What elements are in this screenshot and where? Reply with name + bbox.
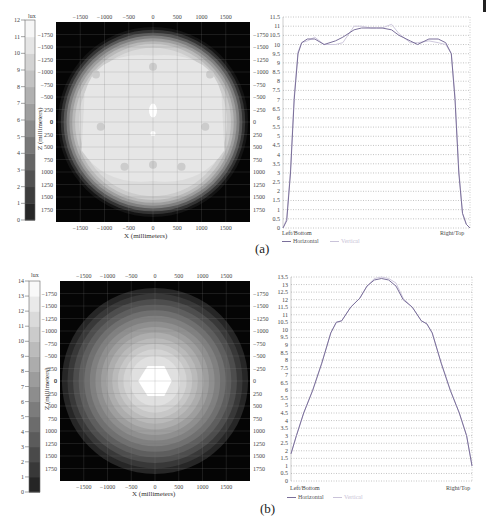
y-tick: 8.5: [273, 69, 281, 75]
y-tick: 1250: [45, 441, 57, 447]
x-left-label-a: Left/Bottom: [282, 230, 312, 236]
illuminance-heatmap: [60, 281, 250, 481]
colorbar-tick: 14: [18, 278, 24, 284]
edge-mark: [483, 0, 486, 12]
colorbar-tick: 1: [21, 474, 24, 480]
series-vertical: [291, 277, 472, 466]
y-tick: 7.5: [281, 365, 289, 371]
y-tick: −1750: [38, 32, 53, 38]
y-tick: 1750: [253, 207, 265, 213]
colorbar: [21, 20, 37, 222]
colorbar-tick: 3: [21, 444, 24, 450]
colorbar-tick: 7: [17, 100, 20, 106]
panel-caption-a: (a): [255, 241, 269, 257]
colorbar-tick: 8: [17, 84, 20, 90]
x-tick: −1500: [76, 484, 91, 490]
y-tick: −1250: [38, 57, 53, 63]
y-tick: 9.5: [281, 334, 289, 340]
y-tick: 1250: [41, 182, 53, 188]
y-tick: 1500: [253, 453, 265, 459]
colorbar-tick: 5: [17, 134, 20, 140]
y-tick: 12: [282, 297, 288, 303]
y-tick: −250: [41, 107, 53, 113]
series-horizontal: [291, 279, 472, 466]
y-tick: 6: [277, 115, 280, 121]
y-tick: 11: [274, 23, 280, 29]
colorbar-tick: 1: [17, 200, 20, 206]
y-tick: 1000: [41, 169, 53, 175]
y-tick: 4: [285, 418, 288, 424]
y-tick: −750: [45, 341, 57, 347]
y-tick: 3: [277, 170, 280, 176]
y-tick: 7.5: [273, 87, 281, 93]
x-tick: −500: [123, 225, 135, 231]
series-horizontal: [283, 28, 470, 228]
y-tick: 9: [277, 60, 280, 66]
colorbar-unit-b: lux: [31, 272, 39, 278]
y-tick: 0.5: [273, 216, 281, 222]
x-tick: 500: [174, 484, 183, 490]
x-tick: 500: [173, 14, 182, 20]
y-tick: 5.5: [273, 124, 281, 130]
x-tick: 0: [154, 484, 157, 490]
y-tick: 1: [277, 207, 280, 213]
y-tick: 12.5: [278, 289, 289, 295]
y-tick: 1: [285, 463, 288, 469]
x-left-label-b: Left/Bottom: [290, 485, 320, 491]
legend-horizontal: Horizontal: [298, 494, 324, 500]
y-tick: 3.5: [273, 161, 281, 167]
y-tick: 250: [44, 132, 53, 138]
y-tick: 7: [285, 372, 288, 378]
y-tick: 2.5: [273, 179, 281, 185]
y-tick: −1000: [42, 328, 57, 334]
y-tick: 1250: [253, 182, 265, 188]
legend-horizontal: Horizontal: [293, 238, 319, 244]
y-tick: 8: [277, 78, 280, 84]
x-tick: 1000: [197, 484, 209, 490]
y-tick: 11.5: [278, 304, 288, 310]
y-tick: −500: [253, 353, 265, 359]
colorbar-tick: 6: [17, 117, 20, 123]
y-tick: 750: [253, 157, 262, 163]
y-tick: −1500: [38, 44, 53, 50]
colorbar-tick: 0: [17, 217, 20, 223]
x-tick: −1000: [97, 225, 112, 231]
y-tick: 3.5: [281, 425, 289, 431]
y-tick: 250: [253, 391, 262, 397]
y-tick: 0: [277, 225, 280, 231]
y-tick: 1000: [253, 169, 265, 175]
legend-swatch-vertical: [333, 497, 342, 498]
x-tick: 1000: [196, 225, 208, 231]
illuminance-heatmap: [56, 22, 250, 222]
line-profile-chart: [283, 17, 470, 228]
colorbar-tick: 9: [17, 67, 20, 73]
y-axis-label-a: Z (millimeters): [36, 107, 44, 150]
y-tick: 13: [282, 282, 288, 288]
y-tick: 0: [285, 478, 288, 484]
legend-vertical: Vertical: [344, 494, 363, 500]
y-tick: 500: [48, 403, 57, 409]
y-tick: −1250: [42, 316, 57, 322]
y-tick: 0: [50, 119, 53, 125]
y-tick: 1750: [45, 466, 57, 472]
colorbar-tick: 2: [21, 459, 24, 465]
y-tick: 1.5: [273, 197, 281, 203]
y-tick: −750: [41, 82, 53, 88]
x-tick: 1500: [220, 14, 232, 20]
colorbar-tick: 11: [14, 34, 20, 40]
y-tick: 500: [253, 144, 262, 150]
colorbar-tick: 9: [21, 353, 24, 359]
y-tick: −250: [253, 366, 265, 372]
y-tick: −750: [253, 341, 265, 347]
y-tick: −1500: [253, 44, 268, 50]
y-tick: −250: [45, 366, 57, 372]
y-tick: 3: [285, 433, 288, 439]
y-tick: −250: [253, 107, 265, 113]
colorbar-tick: 12: [14, 17, 20, 23]
y-tick: −1250: [253, 57, 268, 63]
y-tick: 6: [285, 387, 288, 393]
y-tick: 0: [253, 119, 256, 125]
colorbar-tick: 6: [21, 399, 24, 405]
line-profile-chart: [291, 277, 472, 481]
y-tick: −1250: [253, 316, 268, 322]
